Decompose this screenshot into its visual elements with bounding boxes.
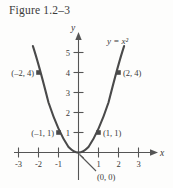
y-axis-label: y (70, 23, 76, 33)
point-label--2-4: (–2, 4) (11, 68, 34, 78)
x-axis-arrow-icon (150, 149, 158, 155)
point-marker--2-4 (36, 70, 41, 75)
point-label-0-0: (0, 0) (97, 172, 116, 182)
y-tick-label-5: 5 (66, 48, 70, 58)
y-axis-arrow-icon (75, 32, 81, 40)
point-label-2-4: (2, 4) (123, 68, 142, 78)
y-tick-label-3: 3 (66, 88, 70, 98)
x-tick-label-2: 2 (116, 159, 120, 169)
x-tick-label--1: -1 (55, 159, 62, 169)
figure-container: Figure 1.2–3 -3 -2 -1 (0, 0, 173, 188)
parabola-plot: -3 -2 -1 1 2 3 1 2 3 4 5 x y y = x² (–2,… (0, 0, 173, 188)
point-marker-1-1 (96, 130, 101, 135)
curve-equation-label: y = x² (106, 36, 129, 46)
x-tick-label-3: 3 (136, 159, 140, 169)
y-tick-label-4: 4 (66, 68, 71, 78)
point-label--1-1: (–1, 1) (31, 128, 54, 138)
x-tick-label--3: -3 (15, 159, 22, 169)
point-marker--1-1 (56, 130, 61, 135)
x-axis-label: x (159, 148, 165, 158)
y-tick-label-2: 2 (66, 108, 70, 118)
point-label-1-1: (1, 1) (103, 128, 122, 138)
y-tick-label-1: 1 (66, 128, 70, 138)
point-marker-2-4 (116, 70, 121, 75)
x-tick-label--2: -2 (35, 159, 42, 169)
x-tick-label-1: 1 (96, 159, 100, 169)
